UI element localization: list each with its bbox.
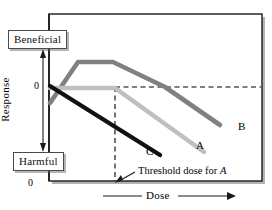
threshold-annotation-prefix: Threshold dose for	[138, 165, 220, 176]
curve-label-b: B	[238, 121, 245, 132]
threshold-annotation-text: Threshold dose for A	[138, 166, 226, 177]
response-direction-arrow	[40, 49, 46, 152]
threshold-annotation-subject: A	[220, 165, 226, 176]
plot-frame	[49, 14, 262, 181]
x-axis-origin-tick: 0	[28, 178, 33, 188]
y-axis-title: Response	[0, 77, 11, 122]
x-axis-title: Dose	[146, 190, 170, 201]
beneficial-axis-label: Beneficial	[8, 30, 67, 49]
curve-label-c: C	[146, 146, 153, 157]
harmful-axis-label: Harmful	[13, 152, 64, 171]
dose-response-chart-figure: Beneficial Harmful Response 0 0 Dose A B…	[0, 0, 272, 210]
curve-label-a: A	[196, 140, 204, 151]
y-axis-zero-tick: 0	[34, 81, 39, 91]
